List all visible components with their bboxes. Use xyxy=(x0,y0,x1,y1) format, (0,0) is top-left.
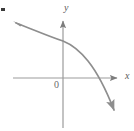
y-axis-label: y xyxy=(64,3,68,13)
curve-left-arrowhead xyxy=(13,21,22,27)
corner-artifact-mark xyxy=(1,8,5,11)
function-curve xyxy=(16,23,114,110)
origin-label: 0 xyxy=(54,80,59,90)
coordinate-plane-svg xyxy=(0,0,134,131)
graph-figure: y x 0 xyxy=(0,0,134,131)
x-axis-label: x xyxy=(125,71,129,81)
